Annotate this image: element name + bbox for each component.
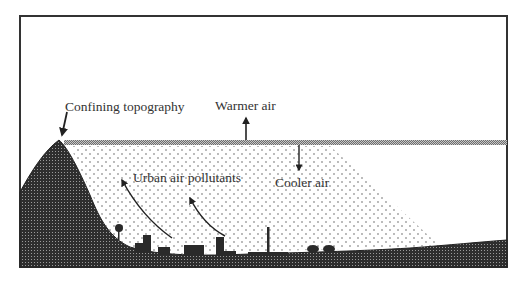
smokestack <box>267 227 270 254</box>
label-urban-air-pollutants: Urban air pollutants <box>133 170 241 185</box>
label-cooler-air: Cooler air <box>275 175 330 190</box>
label-warmer-air: Warmer air <box>215 98 276 113</box>
label-confining-topography: Confining topography <box>65 99 185 114</box>
inversion-layer <box>64 140 507 145</box>
inversion-diagram: Confining topography Warmer air Urban ai… <box>0 0 521 281</box>
